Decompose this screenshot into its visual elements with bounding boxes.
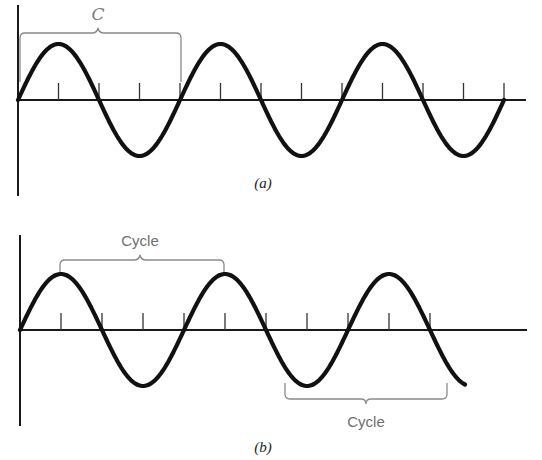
sine-wave-cycle-figure: C (a) Cycle Cycle (b) (0, 0, 542, 460)
panel-b-cycle-label-top: Cycle (121, 232, 159, 249)
panel-b-cycle-label-bottom: Cycle (347, 413, 385, 430)
panel-a-caption: (a) (254, 175, 272, 192)
panel-b-cycle-bracket-top (60, 255, 224, 272)
panel-b: Cycle Cycle (b) (20, 232, 527, 456)
panel-a: C (a) (18, 4, 526, 196)
panel-a-ticks (59, 83, 505, 100)
panel-b-ticks (61, 313, 430, 330)
panel-b-caption: (b) (254, 439, 272, 456)
panel-a-cycle-label: C (91, 4, 104, 24)
